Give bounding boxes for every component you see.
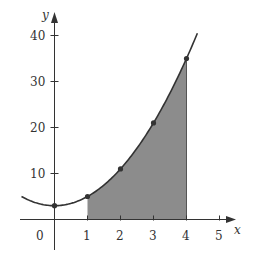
data-point	[52, 203, 57, 208]
data-point	[118, 166, 123, 171]
shaded-area	[88, 59, 187, 220]
x-tick-label-2: 2	[116, 229, 124, 243]
data-point	[151, 120, 156, 125]
origin-label: 0	[36, 229, 44, 243]
x-tick-label-3: 3	[149, 229, 157, 243]
y-axis-label: y	[41, 8, 49, 22]
y-tick-label-10: 10	[30, 167, 45, 181]
chart: y x 0 1 2 3 4 5 10 20 30 40	[0, 0, 256, 260]
x-axis-label: x	[234, 223, 241, 237]
y-tick-label-30: 30	[30, 75, 45, 89]
y-tick-label-20: 20	[30, 121, 45, 135]
y-tick-label-40: 40	[30, 29, 45, 43]
x-tick-label-4: 4	[182, 229, 190, 243]
x-tick-label-5: 5	[215, 229, 223, 243]
x-axis-arrow-icon	[226, 216, 236, 223]
x-tick-label-1: 1	[83, 229, 91, 243]
y-axis-arrow-icon	[51, 12, 58, 23]
data-point	[184, 56, 189, 61]
data-point	[85, 194, 90, 199]
